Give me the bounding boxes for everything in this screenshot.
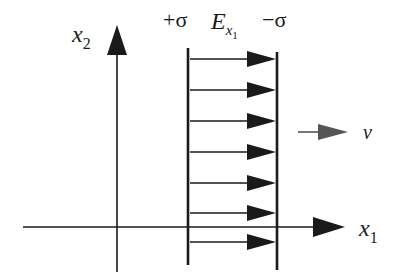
x2-axis-arrowhead-icon (107, 25, 127, 55)
x2-axis-label: x2 (71, 21, 91, 52)
field-label: Ex1 (210, 8, 238, 41)
diagram-canvas: x2 +σ Ex1 −σ v x1 (0, 0, 403, 277)
field-arrow (190, 113, 276, 129)
left-plate-charge-label: +σ (163, 7, 187, 32)
field-arrow (190, 205, 276, 221)
velocity-arrowhead-icon (318, 124, 348, 140)
field-arrow (190, 144, 276, 160)
velocity-label: v (363, 121, 372, 143)
right-plate-charge-label: −σ (262, 7, 286, 32)
velocity-arrow (298, 124, 348, 140)
field-arrowhead-icon (247, 144, 276, 160)
x1-axis-label: x1 (358, 215, 378, 246)
field-arrowhead-icon (247, 175, 276, 191)
field-arrow (190, 82, 276, 98)
x2-axis (107, 25, 127, 272)
field-arrow (190, 51, 276, 67)
field-arrowhead-icon (247, 113, 276, 129)
field-arrow (190, 175, 276, 191)
field-arrowhead-icon (247, 51, 276, 67)
field-arrow (190, 234, 276, 250)
field-arrows (190, 51, 276, 250)
x1-axis (23, 217, 345, 237)
field-arrowhead-icon (247, 234, 276, 250)
x1-axis-arrowhead-icon (313, 217, 345, 237)
field-arrowhead-icon (247, 82, 276, 98)
field-arrowhead-icon (247, 205, 276, 221)
